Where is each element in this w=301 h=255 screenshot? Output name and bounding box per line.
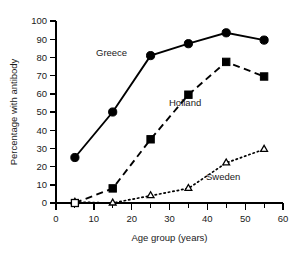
- y-axis-ticks: [50, 21, 56, 203]
- y-tick-label: 100: [31, 15, 47, 26]
- series-label-sweden: Sweden: [206, 171, 240, 182]
- holland-marker: [109, 185, 116, 192]
- axes: [56, 21, 283, 203]
- sweden-marker: [109, 199, 116, 205]
- x-tick-label: 40: [202, 213, 213, 224]
- x-tick-label: 10: [89, 213, 100, 224]
- x-tick-label: 50: [240, 213, 251, 224]
- y-axis-tick-labels: 100 90 80 70 60 50 40 30 20 10 0: [31, 15, 47, 208]
- y-tick-label: 70: [36, 70, 47, 81]
- x-tick-label: 30: [164, 213, 175, 224]
- greece-marker: [222, 29, 230, 37]
- x-axis-ticks: [56, 203, 283, 210]
- y-tick-label: 0: [42, 197, 47, 208]
- greece-marker: [260, 36, 268, 44]
- sweden-marker: [223, 159, 230, 165]
- x-tick-label: 20: [126, 213, 137, 224]
- holland-marker: [260, 73, 267, 80]
- greece-marker: [109, 108, 117, 116]
- series-label-holland: Holland: [169, 97, 201, 108]
- y-tick-label: 40: [36, 125, 47, 136]
- x-tick-label: 0: [53, 213, 58, 224]
- y-tick-label: 80: [36, 52, 47, 63]
- y-tick-label: 10: [36, 179, 47, 190]
- greece-marker: [71, 153, 79, 161]
- sweden-marker: [261, 145, 268, 151]
- y-tick-label: 50: [36, 106, 47, 117]
- greece-marker: [184, 40, 192, 48]
- y-tick-label: 60: [36, 88, 47, 99]
- y-tick-label: 20: [36, 161, 47, 172]
- y-axis-title: Percentage with antibody: [8, 58, 19, 165]
- holland-marker: [147, 136, 154, 143]
- series-label-greece: Greece: [96, 47, 127, 58]
- x-tick-label: 60: [278, 213, 289, 224]
- antibody-prevalence-line-chart: 100 90 80 70 60 50 40 30 20 10 0: [0, 0, 301, 255]
- x-axis-tick-labels: 0 10 20 30 40 50 60: [53, 213, 288, 224]
- sweden-marker: [147, 192, 154, 198]
- greece-marker: [147, 52, 155, 60]
- sweden-marker: [185, 185, 192, 191]
- holland-marker-open: [71, 200, 78, 207]
- holland-marker: [223, 58, 230, 65]
- y-tick-label: 30: [36, 143, 47, 154]
- series-holland: [71, 58, 267, 206]
- y-tick-label: 90: [36, 34, 47, 45]
- x-axis-title: Age group (years): [131, 232, 207, 243]
- chart-figure: 100 90 80 70 60 50 40 30 20 10 0: [0, 0, 301, 255]
